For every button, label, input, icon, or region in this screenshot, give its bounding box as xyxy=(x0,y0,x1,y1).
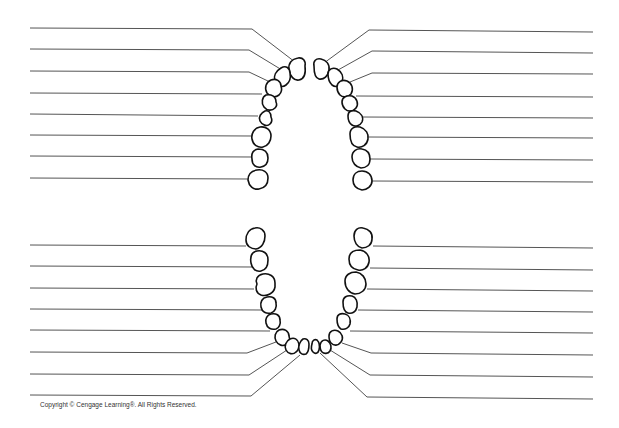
label-line-lower-left-3[interactable] xyxy=(30,288,254,289)
label-line-lower-right-4[interactable] xyxy=(358,310,593,312)
tooth-upper-right-canine[interactable] xyxy=(337,80,352,96)
label-line-upper-left-6[interactable] xyxy=(30,135,252,136)
label-line-upper-right-1[interactable] xyxy=(324,30,593,63)
label-line-upper-right-3[interactable] xyxy=(350,73,593,82)
tooth-upper-left-first-molar[interactable] xyxy=(252,127,271,147)
tooth-lower-right-third-molar[interactable] xyxy=(354,228,372,248)
tooth-upper-right-second-molar[interactable] xyxy=(352,149,370,168)
label-line-upper-left-1[interactable] xyxy=(30,28,295,62)
tooth-lower-right-lateral-incisor[interactable] xyxy=(320,340,331,353)
dental-arch-diagram xyxy=(0,0,619,428)
tooth-upper-right-central-incisor[interactable] xyxy=(314,59,329,79)
tooth-upper-right-second-premolar[interactable] xyxy=(348,111,363,126)
label-line-lower-left-8[interactable] xyxy=(30,355,300,396)
lower-arch-teeth xyxy=(246,228,372,355)
label-line-upper-right-6[interactable] xyxy=(368,137,593,138)
tooth-lower-left-first-molar[interactable] xyxy=(256,274,275,296)
tooth-lower-left-lateral-incisor[interactable] xyxy=(285,338,299,354)
label-line-lower-right-6[interactable] xyxy=(342,343,593,355)
label-line-lower-right-2[interactable] xyxy=(370,268,593,270)
tooth-lower-left-second-molar[interactable] xyxy=(251,251,268,271)
tooth-lower-left-third-molar[interactable] xyxy=(246,228,265,249)
tooth-lower-right-second-premolar[interactable] xyxy=(343,296,357,314)
label-line-upper-right-8[interactable] xyxy=(372,181,593,182)
label-line-lower-left-5[interactable] xyxy=(30,330,270,331)
upper-arch-teeth xyxy=(248,58,372,190)
label-line-lower-left-1[interactable] xyxy=(30,245,246,246)
label-line-lower-right-5[interactable] xyxy=(350,331,593,333)
tooth-lower-right-first-premolar[interactable] xyxy=(337,314,350,330)
label-line-lower-left-6[interactable] xyxy=(30,342,276,353)
tooth-upper-right-first-premolar[interactable] xyxy=(342,96,357,111)
tooth-upper-left-second-premolar[interactable] xyxy=(259,111,271,126)
copyright-notice: Copyright © Cengage Learning®. All Right… xyxy=(40,401,197,408)
tooth-upper-left-second-molar[interactable] xyxy=(252,149,268,167)
label-line-lower-left-4[interactable] xyxy=(30,309,262,310)
label-line-upper-right-2[interactable] xyxy=(338,51,593,70)
label-line-upper-left-3[interactable] xyxy=(30,71,270,82)
label-line-lower-right-1[interactable] xyxy=(373,246,593,248)
tooth-lower-right-second-molar[interactable] xyxy=(349,250,369,270)
tooth-lower-left-central-incisor[interactable] xyxy=(299,339,309,355)
label-line-upper-left-2[interactable] xyxy=(30,49,282,70)
tooth-lower-right-central-incisor[interactable] xyxy=(311,340,319,354)
tooth-lower-right-first-molar[interactable] xyxy=(345,272,366,294)
label-line-upper-left-7[interactable] xyxy=(30,156,252,157)
label-line-lower-left-2[interactable] xyxy=(30,266,252,267)
label-line-upper-left-4[interactable] xyxy=(30,93,262,94)
tooth-upper-right-third-molar[interactable] xyxy=(353,171,372,190)
tooth-upper-right-first-molar[interactable] xyxy=(350,127,368,147)
label-line-upper-left-5[interactable] xyxy=(30,114,258,116)
label-line-upper-right-5[interactable] xyxy=(362,117,593,118)
label-line-upper-left-8[interactable] xyxy=(30,178,248,179)
label-line-upper-right-4[interactable] xyxy=(356,96,593,97)
label-line-lower-right-3[interactable] xyxy=(367,289,593,291)
tooth-upper-left-first-premolar[interactable] xyxy=(262,95,276,110)
tooth-upper-left-third-molar[interactable] xyxy=(248,170,268,189)
tooth-upper-left-central-incisor[interactable] xyxy=(289,58,305,80)
tooth-lower-left-first-premolar[interactable] xyxy=(266,314,281,330)
tooth-lower-left-second-premolar[interactable] xyxy=(261,297,277,314)
label-line-lower-left-7[interactable] xyxy=(30,350,287,375)
tooth-lower-right-canine[interactable] xyxy=(329,330,342,345)
label-line-upper-right-7[interactable] xyxy=(370,159,593,160)
